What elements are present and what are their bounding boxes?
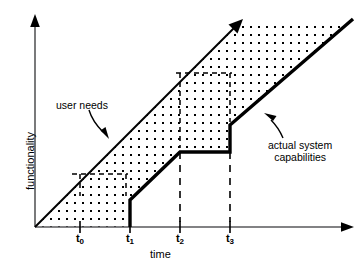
diagram-canvas xyxy=(0,0,362,271)
x-axis-arrowhead xyxy=(341,222,354,232)
user-needs-leader xyxy=(89,110,109,139)
functionality-gap-fill xyxy=(35,20,352,227)
x-tick-label-t2: t2 xyxy=(172,232,188,245)
actual-capabilities-annotation-line2: capabilities xyxy=(268,151,332,163)
functionality-gap-diagram: t0 t1 t2 t3 time functionality user need… xyxy=(0,0,362,271)
drop-lines xyxy=(180,152,230,222)
actual-capabilities-annotation: actual system capabilities xyxy=(268,139,332,163)
x-tick-label-t0: t0 xyxy=(72,232,88,245)
actual-capabilities-leader-curve xyxy=(271,120,283,138)
y-axis-arrowhead xyxy=(30,14,40,27)
actual-capabilities-leader-arrowhead xyxy=(264,113,277,121)
actual-capabilities-annotation-line1: actual system xyxy=(268,139,332,151)
user-needs-leader-curve xyxy=(89,110,103,132)
actual-capabilities-leader xyxy=(264,113,283,138)
user-needs-annotation: user needs xyxy=(56,99,108,111)
y-axis-title: functionality xyxy=(24,132,37,190)
x-tick-label-t1: t1 xyxy=(122,232,138,245)
user-needs-leader-arrowhead xyxy=(101,127,110,139)
x-tick-label-t3: t3 xyxy=(222,232,238,245)
x-axis-title: time xyxy=(150,248,171,261)
